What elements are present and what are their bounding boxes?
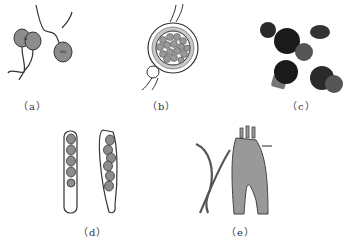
caption-b: （b） [147, 98, 176, 113]
panel-d-asci [64, 130, 117, 213]
caption-e: （e） [226, 224, 255, 239]
figure-illustrations: u oo [0, 0, 349, 245]
figure: u oo [0, 0, 349, 245]
caption-d: （d） [78, 224, 107, 239]
caption-a: （a） [18, 98, 47, 113]
panel-c-dark-spores [260, 22, 343, 93]
panel-a-zoospores: u oo [8, 5, 72, 80]
panel-b-sporangium [142, 4, 198, 90]
panel-e-hyphae [196, 126, 272, 214]
caption-c: （c） [287, 98, 316, 113]
svg-text:oo: oo [60, 48, 66, 54]
